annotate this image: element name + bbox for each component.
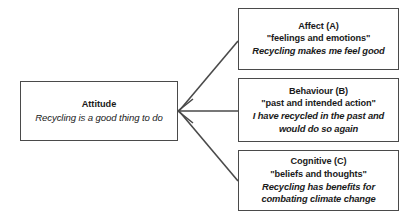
attitude-example: Recycling is a good thing to do xyxy=(35,112,163,124)
behaviour-definition: "past and intended action" xyxy=(261,98,375,109)
cognitive-example-line-2: combating climate change xyxy=(261,193,375,204)
affect-example-line-1: Recycling makes me feel good xyxy=(252,45,384,56)
affect-box: Affect (A) "feelings and emotions" Recyc… xyxy=(238,8,399,70)
attitude-box: Attitude Recycling is a good thing to do xyxy=(20,81,178,141)
behaviour-example-line-1: I have recycled in the past and xyxy=(253,110,384,121)
connector-attitude-to-cognitive xyxy=(179,111,238,181)
cognitive-box: Cognitive (C) "beliefs and thoughts" Rec… xyxy=(238,150,399,211)
cognitive-definition: "beliefs and thoughts" xyxy=(270,169,366,180)
behaviour-title: Behaviour (B) xyxy=(289,86,348,97)
affect-definition: "feelings and emotions" xyxy=(267,33,370,44)
cognitive-example-line-1: Recycling has benefits for xyxy=(262,181,375,192)
arrowhead-icon xyxy=(178,99,193,123)
cognitive-title: Cognitive (C) xyxy=(291,156,347,167)
behaviour-box: Behaviour (B) "past and intended action"… xyxy=(238,78,399,142)
connector-attitude-to-affect xyxy=(179,41,238,111)
diagram-canvas: Attitude Recycling is a good thing to do… xyxy=(0,0,418,220)
attitude-title: Attitude xyxy=(82,99,117,110)
affect-title: Affect (A) xyxy=(298,21,338,32)
behaviour-example-line-2: would do so again xyxy=(279,123,358,134)
